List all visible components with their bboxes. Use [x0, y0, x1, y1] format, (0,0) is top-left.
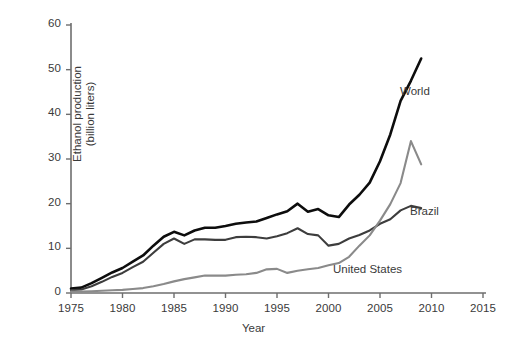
x-tick-label: 1980: [98, 302, 148, 314]
x-tick-label: 2000: [304, 302, 354, 314]
y-tick-label: 40: [27, 106, 61, 118]
series-label-brazil: Brazil: [410, 205, 439, 217]
x-axis-title-text: Year: [242, 322, 265, 334]
x-tick-label: 2005: [355, 302, 405, 314]
series-label-united-states: United States: [333, 263, 402, 275]
series-label-world: World: [400, 85, 430, 97]
ethanol-production-chart: Ethanol production (billion liters) Year…: [0, 0, 507, 346]
x-tick-label: 1985: [149, 302, 199, 314]
chart-axes: [66, 23, 486, 298]
y-tick-label: 0: [27, 285, 61, 297]
y-axis-title: Ethanol production (billion liters): [74, 44, 94, 184]
y-tick-label: 30: [27, 151, 61, 163]
x-tick-label: 2010: [407, 302, 457, 314]
chart-series-lines: [71, 59, 421, 292]
y-tick-label: 50: [27, 62, 61, 74]
x-axis-title: Year: [0, 322, 507, 334]
y-axis-title-line2: (billion liters): [84, 82, 96, 147]
y-axis-title-line1: Ethanol production: [71, 66, 83, 162]
x-tick-label: 1990: [201, 302, 251, 314]
y-tick-label: 10: [27, 240, 61, 252]
y-tick-label: 60: [27, 17, 61, 29]
x-tick-label: 1975: [46, 302, 96, 314]
x-tick-label: 2015: [458, 302, 507, 314]
x-tick-label: 1995: [252, 302, 302, 314]
y-tick-label: 20: [27, 196, 61, 208]
